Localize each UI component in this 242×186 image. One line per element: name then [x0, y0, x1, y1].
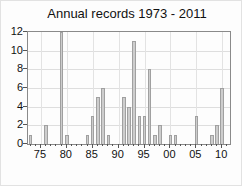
bar-1997: [153, 135, 157, 144]
bar-1996: [148, 69, 152, 144]
bar-1980: [65, 135, 69, 144]
x-tick-label-10: 10: [212, 149, 230, 160]
x-minor-tick-1991: [123, 144, 124, 146]
bar-1985: [91, 116, 95, 144]
bar-2008: [210, 135, 214, 144]
y-tick-label-4: 4: [3, 101, 23, 112]
x-minor-tick-1987: [102, 144, 103, 146]
x-tick-label-00: 00: [160, 149, 178, 160]
plot-area: [27, 31, 231, 145]
y-tick-mark-4: [23, 106, 27, 107]
x-minor-tick-1989: [112, 144, 113, 146]
x-minor-tick-2011: [226, 144, 227, 146]
y-tick-mark-8: [23, 68, 27, 69]
bar-1987: [101, 88, 105, 144]
bar-1973: [29, 135, 33, 144]
bar-1984: [86, 135, 90, 144]
bar-2005: [195, 116, 199, 144]
y-tick-mark-2: [23, 124, 27, 125]
y-tick-label-2: 2: [3, 119, 23, 130]
x-minor-tick-2003: [185, 144, 186, 146]
x-minor-tick-2009: [216, 144, 217, 146]
x-minor-tick-2007: [206, 144, 207, 146]
y-tick-mark-6: [23, 87, 27, 88]
y-tick-label-12: 12: [3, 26, 23, 37]
bar-1988: [107, 135, 111, 144]
chart-title: Annual records 1973 - 2011: [25, 6, 229, 21]
bar-2001: [174, 135, 178, 144]
gridline-x-1975: [41, 32, 42, 144]
gridline-x-1990: [119, 32, 120, 144]
gridline-y-10: [28, 51, 230, 52]
x-minor-tick-2002: [180, 144, 181, 146]
y-tick-label-6: 6: [3, 82, 23, 93]
gridline-x-1980: [67, 32, 68, 144]
x-minor-tick-2001: [175, 144, 176, 146]
x-tick-label-85: 85: [83, 149, 101, 160]
x-minor-tick-1978: [55, 144, 56, 146]
bar-1995: [143, 116, 147, 144]
x-tick-label-95: 95: [135, 149, 153, 160]
x-minor-tick-1999: [164, 144, 165, 146]
bar-1976: [44, 125, 48, 144]
y-tick-label-8: 8: [3, 63, 23, 74]
x-minor-tick-2004: [190, 144, 191, 146]
y-tick-mark-0: [23, 143, 27, 144]
bar-1979: [60, 32, 64, 144]
x-minor-tick-1998: [159, 144, 160, 146]
bar-1986: [96, 97, 100, 144]
y-tick-label-10: 10: [3, 45, 23, 56]
x-minor-tick-1974: [35, 144, 36, 146]
x-tick-label-90: 90: [109, 149, 127, 160]
x-tick-label-05: 05: [186, 149, 204, 160]
x-minor-tick-1982: [76, 144, 77, 146]
bar-1991: [122, 97, 126, 144]
x-minor-tick-1997: [154, 144, 155, 146]
x-minor-tick-1979: [61, 144, 62, 146]
x-minor-tick-1983: [81, 144, 82, 146]
y-tick-label-0: 0: [3, 138, 23, 149]
x-minor-tick-1977: [50, 144, 51, 146]
bar-1993: [132, 41, 136, 144]
x-minor-tick-1992: [128, 144, 129, 146]
gridline-y-8: [28, 69, 230, 70]
bar-2010: [220, 88, 224, 144]
x-tick-label-80: 80: [57, 149, 75, 160]
x-minor-tick-2008: [211, 144, 212, 146]
x-minor-tick-1996: [149, 144, 150, 146]
chart-figure: Annual records 1973 - 2011 0246810127580…: [0, 0, 242, 186]
y-tick-mark-10: [23, 50, 27, 51]
x-minor-tick-1994: [138, 144, 139, 146]
bar-2000: [169, 135, 173, 144]
gridline-y-6: [28, 88, 230, 89]
x-minor-tick-2006: [201, 144, 202, 146]
bar-2009: [215, 125, 219, 144]
x-minor-tick-1973: [30, 144, 31, 146]
x-minor-tick-1988: [107, 144, 108, 146]
bar-1994: [138, 116, 142, 144]
x-minor-tick-1984: [87, 144, 88, 146]
bar-1998: [158, 125, 162, 144]
x-minor-tick-1976: [45, 144, 46, 146]
x-minor-tick-1986: [97, 144, 98, 146]
gridline-x-2000: [170, 32, 171, 144]
y-tick-mark-12: [23, 31, 27, 32]
x-tick-label-75: 75: [31, 149, 49, 160]
bar-1992: [127, 107, 131, 144]
x-minor-tick-1981: [71, 144, 72, 146]
x-minor-tick-1993: [133, 144, 134, 146]
